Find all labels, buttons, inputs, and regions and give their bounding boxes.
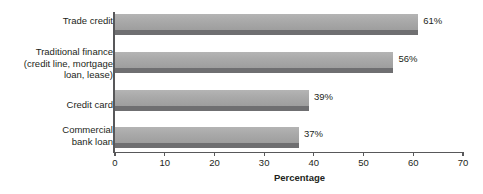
x-tick-label-60: 60	[400, 157, 426, 168]
category-label-trade-credit: Trade credit	[63, 15, 113, 27]
bar-value-label: 56%	[398, 53, 417, 64]
x-tick-60	[413, 152, 414, 156]
bar-chart: Trade credit Traditional finance (credit…	[0, 0, 483, 194]
bar-value-label: 61%	[423, 15, 442, 26]
bar-shadow	[115, 143, 299, 148]
bar-credit-card: 39%	[115, 90, 309, 111]
bar-commercial-bank-loan: 37%	[115, 127, 299, 148]
category-label-commercial-bank-loan: Commercial bank loan	[62, 124, 113, 147]
x-axis-title: Percentage	[0, 172, 483, 183]
bar-body	[115, 52, 393, 68]
bar-value-label: 39%	[314, 91, 333, 102]
bar-traditional-finance: 56%	[115, 52, 393, 73]
x-tick-20	[214, 152, 215, 156]
bar-shadow	[115, 68, 393, 73]
x-tick-label-50: 50	[351, 157, 377, 168]
bar-shadow	[115, 106, 309, 111]
x-tick-70	[462, 152, 463, 156]
x-tick-40	[313, 152, 314, 156]
bar-body	[115, 127, 299, 143]
x-tick-label-0: 0	[102, 157, 128, 168]
x-tick-50	[363, 152, 364, 156]
x-axis-line	[113, 152, 463, 154]
category-label-credit-card: Credit card	[67, 99, 113, 111]
x-tick-0	[114, 152, 115, 156]
x-tick-10	[164, 152, 165, 156]
bar-trade-credit: 61%	[115, 14, 418, 35]
x-tick-label-20: 20	[201, 157, 227, 168]
x-tick-label-40: 40	[301, 157, 327, 168]
category-label-traditional-finance: Traditional finance (credit line, mortga…	[24, 46, 113, 81]
y-axis-line	[113, 12, 115, 153]
x-tick-label-10: 10	[152, 157, 178, 168]
x-tick-30	[264, 152, 265, 156]
x-tick-label-70: 70	[450, 157, 476, 168]
bar-value-label: 37%	[304, 128, 323, 139]
x-tick-label-30: 30	[251, 157, 277, 168]
bar-body	[115, 14, 418, 30]
bar-shadow	[115, 30, 418, 35]
bar-body	[115, 90, 309, 106]
